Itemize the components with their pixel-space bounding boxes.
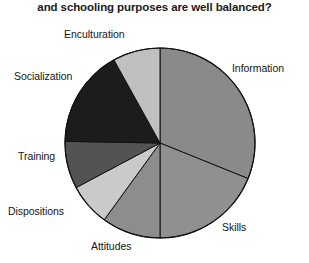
- pie-label-information: Information: [232, 62, 284, 74]
- pie-label-training: Training: [18, 150, 55, 162]
- pie-label-attitudes: Attitudes: [91, 240, 131, 252]
- pie-slices-group: [65, 48, 255, 238]
- pie-label-enculturation: Enculturation: [64, 28, 125, 40]
- pie-label-socialization: Socialization: [14, 70, 72, 82]
- pie-chart-figure: and schooling purposes are well balanced…: [0, 0, 309, 263]
- pie-label-skills: Skills: [222, 221, 246, 233]
- pie-label-dispositions: Dispositions: [8, 205, 64, 217]
- pie-chart-graphic: [0, 0, 309, 263]
